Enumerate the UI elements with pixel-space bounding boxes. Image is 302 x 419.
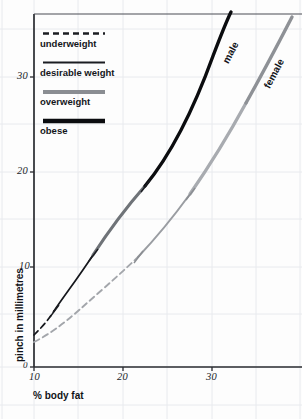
legend-swatch-obese <box>43 118 105 124</box>
ytick-label-30: 30 <box>17 70 28 81</box>
x-axis-title: % body fat <box>33 390 84 401</box>
legend-label-underweight: underweight <box>40 38 96 49</box>
female-underweight-segment <box>34 257 138 342</box>
legend-item-desirable-weight: desirable weight <box>40 57 136 86</box>
legend-label-overweight: overweight <box>40 96 90 107</box>
legend-label-obese: obese <box>40 125 67 136</box>
legend: underweight desirable weight overweight … <box>40 28 136 144</box>
y-axis-title: pinch in millimetres <box>14 268 25 362</box>
female-obese-segment <box>246 17 292 103</box>
female-desirable-segment <box>138 194 190 257</box>
female-overweight-segment <box>190 103 246 194</box>
xtick-label-10: 10 <box>29 371 40 382</box>
legend-item-obese: obese <box>40 115 136 144</box>
legend-label-desirable-weight: desirable weight <box>40 67 114 78</box>
body-fat-pinch-chart: underweight desirable weight overweight … <box>0 0 302 419</box>
legend-swatch-underweight <box>43 31 105 36</box>
xtick-label-20: 20 <box>117 371 128 382</box>
curve-tick-markers <box>50 180 195 317</box>
xtick-label-30: 30 <box>206 371 217 382</box>
legend-swatch-overweight <box>43 89 105 95</box>
legend-item-overweight: overweight <box>40 86 136 115</box>
legend-item-underweight: underweight <box>40 28 136 57</box>
male-overweight-segment <box>93 186 145 255</box>
legend-swatch-desirable-weight <box>43 60 105 65</box>
ytick-label-20: 20 <box>17 165 28 176</box>
male-obese-segment <box>145 12 231 186</box>
